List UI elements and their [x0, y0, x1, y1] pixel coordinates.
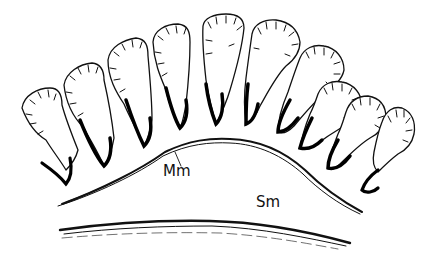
gland-4 [153, 24, 190, 128]
gland-5 [203, 14, 244, 124]
gland-arc-illustration [0, 0, 443, 263]
label-submucosa: Sm [256, 195, 280, 210]
gland-3 [108, 38, 152, 146]
label-muscularis-mucosae: Mm [163, 164, 191, 179]
diagram-canvas: Mm Sm [0, 0, 443, 263]
muscularis-externa-band [60, 221, 350, 249]
